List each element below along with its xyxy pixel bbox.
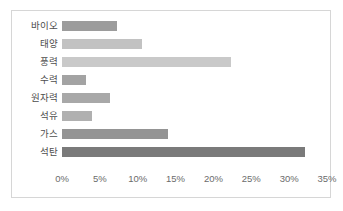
bar-row[interactable]: 수력 — [12, 71, 332, 89]
category-label-coal: 석탄 — [0, 143, 58, 161]
x-tick-label: 0% — [45, 171, 79, 187]
x-tick-label: 20% — [196, 171, 230, 187]
x-tick-label: 25% — [234, 171, 268, 187]
x-tick-label: 30% — [272, 171, 306, 187]
x-tick-label: 15% — [159, 171, 193, 187]
x-tick-label: 35% — [310, 171, 343, 187]
category-label-oil: 석유 — [0, 107, 58, 125]
bar-nuclear[interactable] — [62, 93, 110, 103]
bar-track — [62, 89, 327, 107]
category-label-nuclear: 원자력 — [0, 89, 58, 107]
bar-oil[interactable] — [62, 111, 92, 121]
x-tick-label: 10% — [121, 171, 155, 187]
bar-gas[interactable] — [62, 129, 168, 139]
bar-hydro[interactable] — [62, 75, 86, 85]
bar-track — [62, 143, 327, 161]
category-label-hydro: 수력 — [0, 71, 58, 89]
category-label-wind: 풍력 — [0, 53, 58, 71]
bar-track — [62, 35, 327, 53]
category-label-solar: 태양 — [0, 35, 58, 53]
bar-row[interactable]: 원자력 — [12, 89, 332, 107]
bar-coal[interactable] — [62, 147, 305, 157]
bar-row[interactable]: 태양 — [12, 35, 332, 53]
x-tick-label: 5% — [83, 171, 117, 187]
category-label-bio: 바이오 — [0, 17, 58, 35]
bar-track — [62, 107, 327, 125]
bar-bio[interactable] — [62, 21, 117, 31]
bar-row[interactable]: 바이오 — [12, 17, 332, 35]
bar-row[interactable]: 석유 — [12, 107, 332, 125]
x-axis-tick-labels: 0%5%10%15%20%25%30%35% — [12, 171, 332, 191]
bar-track — [62, 71, 327, 89]
bar-row[interactable]: 가스 — [12, 125, 332, 143]
bar-row[interactable]: 풍력 — [12, 53, 332, 71]
bar-track — [62, 125, 327, 143]
bar-wind[interactable] — [62, 57, 231, 67]
chart-plot-area: 바이오 태양 풍력 수력 원자력 — [12, 11, 332, 199]
bar-track — [62, 17, 327, 35]
bar-track — [62, 53, 327, 71]
category-label-gas: 가스 — [0, 125, 58, 143]
bar-solar[interactable] — [62, 39, 142, 49]
bar-row[interactable]: 석탄 — [12, 143, 332, 161]
chart-frame: 바이오 태양 풍력 수력 원자력 — [11, 10, 331, 198]
